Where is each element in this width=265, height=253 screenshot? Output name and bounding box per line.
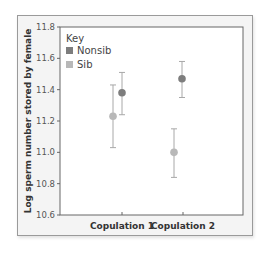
x-category-label: Copulation 2: [151, 221, 215, 231]
y-tick-label: 11.6: [36, 53, 55, 63]
legend-swatch-sib: [66, 61, 73, 68]
data-point-sib: [170, 149, 178, 157]
legend-title: Key: [66, 33, 84, 44]
data-point-sib: [109, 113, 117, 121]
y-axis-label: Log sperm number stored by female: [23, 29, 33, 214]
y-tick-label: 11.0: [36, 147, 55, 157]
y-tick-label: 11.2: [36, 116, 55, 126]
x-category-label: Copulation 1: [90, 221, 154, 231]
data-point-nonsib: [178, 75, 186, 83]
error-bar-chart: Log sperm number stored by female 11.811…: [0, 0, 265, 253]
y-tick-label: 10.8: [36, 179, 55, 189]
legend-label-nonsib: Nonsib: [77, 45, 111, 56]
y-axis: 11.811.611.411.211.010.810.6: [36, 22, 60, 220]
y-tick-label: 11.8: [36, 22, 55, 32]
legend-swatch-nonsib: [66, 47, 73, 54]
y-tick-label: 10.6: [36, 210, 55, 220]
data-point-nonsib: [118, 89, 126, 97]
legend-label-sib: Sib: [77, 59, 92, 70]
y-tick-label: 11.4: [36, 85, 55, 95]
